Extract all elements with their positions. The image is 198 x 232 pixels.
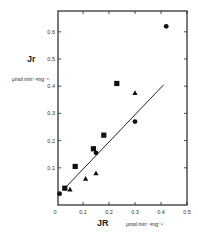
- triangle-marker: [67, 187, 72, 192]
- circle-marker: [94, 150, 99, 155]
- x-tick-label: 0.2: [105, 209, 113, 215]
- regression-line: [65, 85, 164, 188]
- y-tick-label: 0.6: [47, 29, 55, 35]
- y-tick-label: 0.1: [47, 165, 55, 171]
- y-tick-label: 0.5: [47, 56, 55, 62]
- plot-border: [58, 11, 187, 205]
- scatter-chart: 00.10.20.30.40.50.10.20.30.40.50.6: [0, 0, 198, 232]
- y-tick-label: 0.4: [47, 83, 55, 89]
- square-marker: [114, 81, 119, 86]
- x-tick-label: 0.4: [157, 209, 165, 215]
- y-tick-label: 0.3: [47, 110, 55, 116]
- circle-marker: [57, 191, 62, 196]
- x-axis-title: JR: [97, 218, 109, 228]
- plot-frame: [58, 11, 187, 205]
- x-axis-unit: μmol min⁻¹mg⁻¹: [126, 221, 163, 227]
- y-axis-unit: μmol min⁻¹mg⁻¹: [12, 76, 49, 82]
- square-marker: [73, 164, 78, 169]
- circle-marker: [133, 119, 138, 124]
- triangle-marker: [93, 170, 98, 175]
- triangle-marker: [132, 90, 137, 95]
- x-tick-label: 0.5: [183, 209, 191, 215]
- fit-line: [65, 85, 164, 188]
- y-tick-label: 0.2: [47, 138, 55, 144]
- data-points: [57, 24, 168, 196]
- x-tick-label: 0.1: [79, 209, 87, 215]
- x-tick-label: 0: [53, 209, 56, 215]
- triangle-marker: [83, 176, 88, 181]
- circle-marker: [164, 24, 169, 29]
- square-marker: [101, 133, 106, 138]
- square-marker: [62, 186, 67, 191]
- x-tick-label: 0.3: [131, 209, 139, 215]
- y-axis-title: Jr: [27, 54, 36, 64]
